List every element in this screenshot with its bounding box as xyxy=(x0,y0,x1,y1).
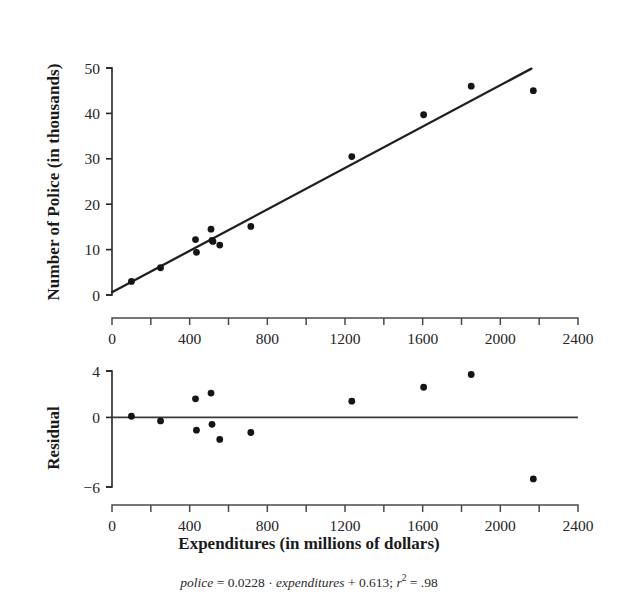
svg-text:400: 400 xyxy=(178,517,202,534)
svg-text:30: 30 xyxy=(85,150,101,167)
scatter-point xyxy=(468,83,475,90)
scatter-point xyxy=(530,87,537,94)
residual-point xyxy=(348,398,355,405)
residual-x-axis: 04008001200160020002400 xyxy=(108,505,594,534)
residual-points xyxy=(128,371,537,482)
svg-text:1600: 1600 xyxy=(407,517,438,534)
regression-equation-caption: police = 0.0228 · expenditures + 0.613; … xyxy=(0,573,618,591)
scatter-point xyxy=(208,226,215,233)
scatter-points xyxy=(128,83,537,285)
scatter-point xyxy=(128,278,135,285)
caption-eq-part3: = .98 xyxy=(406,575,437,590)
caption-response-var: police xyxy=(180,575,213,590)
caption-eq-part1: = 0.0228 · xyxy=(213,575,276,590)
svg-text:40: 40 xyxy=(85,105,101,122)
svg-text:−6: −6 xyxy=(84,479,101,496)
scatter-point xyxy=(348,153,355,160)
caption-predictor-var: expenditures xyxy=(276,575,344,590)
svg-text:1600: 1600 xyxy=(407,330,438,345)
svg-text:2000: 2000 xyxy=(485,517,516,534)
scatter-point xyxy=(247,223,254,230)
svg-text:2400: 2400 xyxy=(563,330,594,345)
scatter-point xyxy=(193,249,200,256)
residual-point xyxy=(193,427,200,434)
residual-point xyxy=(128,413,135,420)
residual-plot: 40−604008001200160020002400 xyxy=(0,345,618,535)
residual-point xyxy=(530,475,537,482)
scatter-y-axis: 01020304050 xyxy=(85,60,113,304)
residual-point xyxy=(208,390,215,397)
svg-text:20: 20 xyxy=(85,196,101,213)
residual-point xyxy=(468,371,475,378)
residual-point xyxy=(157,417,164,424)
svg-text:2400: 2400 xyxy=(563,517,594,534)
regression-line xyxy=(112,69,531,293)
svg-text:50: 50 xyxy=(85,60,101,77)
svg-text:800: 800 xyxy=(256,517,280,534)
scatter-point xyxy=(192,236,199,243)
residual-point xyxy=(216,436,223,443)
scatter-x-axis: 04008001200160020002400 xyxy=(108,318,594,345)
scatter-point xyxy=(157,264,164,271)
scatter-point xyxy=(420,111,427,118)
residual-y-spine xyxy=(106,371,112,487)
scatter-plot: 0102030405004008001200160020002400 xyxy=(0,0,618,345)
svg-text:0: 0 xyxy=(92,287,100,304)
scatter-point xyxy=(216,242,223,249)
svg-text:4: 4 xyxy=(92,363,100,380)
scatter-y-spine xyxy=(106,68,112,295)
residual-point xyxy=(209,421,216,428)
svg-text:1200: 1200 xyxy=(330,517,361,534)
residual-point xyxy=(247,429,254,436)
residual-y-axis: 40−6 xyxy=(84,363,113,496)
svg-text:10: 10 xyxy=(85,241,101,258)
caption-eq-part2: + 0.613; xyxy=(345,575,397,590)
residual-point xyxy=(420,384,427,391)
svg-text:1200: 1200 xyxy=(330,330,361,345)
svg-text:800: 800 xyxy=(256,330,280,345)
svg-text:0: 0 xyxy=(108,330,116,345)
svg-text:0: 0 xyxy=(92,409,100,426)
svg-text:2000: 2000 xyxy=(485,330,516,345)
residual-point xyxy=(192,395,199,402)
svg-text:400: 400 xyxy=(178,330,202,345)
svg-text:0: 0 xyxy=(108,517,116,534)
figure-root: Number of Police (in thousands) 01020304… xyxy=(0,0,618,613)
scatter-point xyxy=(210,238,217,245)
x-axis-title: Expenditures (in millions of dollars) xyxy=(0,534,618,554)
